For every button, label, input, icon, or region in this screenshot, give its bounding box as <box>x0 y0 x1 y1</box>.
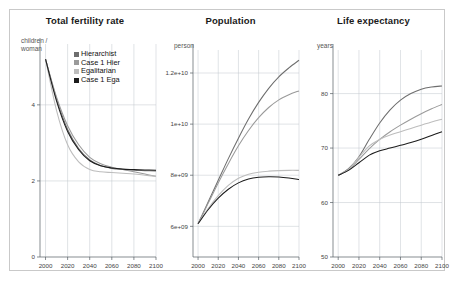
y-tick-label: 80 <box>321 90 328 97</box>
x-tick-label: 2020 <box>211 262 225 269</box>
x-tick-label: 2060 <box>105 262 119 269</box>
figure-frame: Total fertility rate children / woman 02… <box>9 9 445 271</box>
x-tick-label: 2040 <box>232 262 246 269</box>
y-tick-label: 4 <box>32 101 36 108</box>
y-tick-label: 8e+09 <box>171 171 189 178</box>
y-tick-label: 6e+09 <box>171 223 189 230</box>
chart-panel-population: Population person 6e+098e+091e+101.2e+10… <box>158 10 303 272</box>
legend-label: Case 1 Ega <box>81 76 120 85</box>
legend-item: Case 1 Ega <box>74 76 120 85</box>
x-tick-label: 2080 <box>414 262 428 269</box>
x-tick-label: 2040 <box>373 262 387 269</box>
x-tick-label: 2000 <box>331 262 345 269</box>
x-tick-label: 2040 <box>83 262 97 269</box>
x-tick-label: 2080 <box>127 262 141 269</box>
x-tick-label: 2000 <box>191 262 205 269</box>
x-tick-label: 2020 <box>61 262 75 269</box>
y-tick-label: 60 <box>321 199 328 206</box>
chart-panel-total-fertility-rate: Total fertility rate children / woman 02… <box>10 10 160 272</box>
series-line <box>338 132 442 176</box>
x-tick-label: 2060 <box>252 262 266 269</box>
y-tick-label: 1.2e+10 <box>165 69 188 76</box>
legend-swatch-icon <box>74 78 79 83</box>
legend-swatch-icon <box>74 60 79 65</box>
x-tick-label: 2060 <box>394 262 408 269</box>
series-line <box>198 60 299 224</box>
legend-swatch-icon <box>74 69 79 74</box>
y-tick-label: 50 <box>321 253 328 260</box>
chart-svg-life-expectancy: 50607080200020202040206020802100 <box>301 10 446 272</box>
y-tick-label: 2 <box>32 177 36 184</box>
chart-svg-population: 6e+098e+091e+101.2e+10200020202040206020… <box>158 10 303 272</box>
x-tick-label: 2020 <box>352 262 366 269</box>
y-tick-label: 0 <box>32 253 36 260</box>
x-tick-label: 2000 <box>39 262 53 269</box>
chart-panel-life-expectancy: Life expectancy years 506070802000202020… <box>301 10 446 272</box>
y-tick-label: 1e+10 <box>171 120 189 127</box>
series-line <box>338 104 442 175</box>
y-tick-label: 70 <box>321 144 328 151</box>
x-tick-label: 2080 <box>272 262 286 269</box>
series-line <box>198 170 299 223</box>
legend: HierarchistCase 1 HierEgalitarianCase 1 … <box>72 48 123 86</box>
series-line <box>198 177 299 224</box>
x-tick-label: 2100 <box>435 262 449 269</box>
legend-swatch-icon <box>74 52 79 57</box>
series-line <box>338 86 442 175</box>
